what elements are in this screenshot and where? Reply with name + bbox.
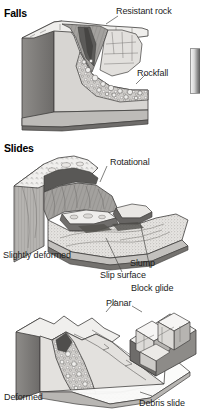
label-slump: Slump — [130, 258, 155, 268]
figure-artwork — [0, 0, 200, 415]
section-heading-falls: Falls — [4, 7, 27, 19]
label-deformed: Deformed — [4, 392, 43, 402]
label-debris-slide: Debris slide — [139, 398, 185, 408]
label-resistant-rock: Resistant rock — [116, 6, 172, 16]
label-rotational: Rotational — [110, 157, 150, 167]
label-rockfall: Rockfall — [137, 68, 168, 78]
label-slightly-deformed: Slightly deformed — [3, 250, 71, 260]
landslide-types-figure: Falls Resistant rock Rockfall Slides Rot… — [0, 0, 200, 415]
label-slip-surface: Slip surface — [100, 270, 146, 280]
label-planar: Planar — [106, 298, 131, 308]
label-block-glide: Block glide — [131, 283, 173, 293]
section-heading-slides: Slides — [4, 142, 34, 154]
